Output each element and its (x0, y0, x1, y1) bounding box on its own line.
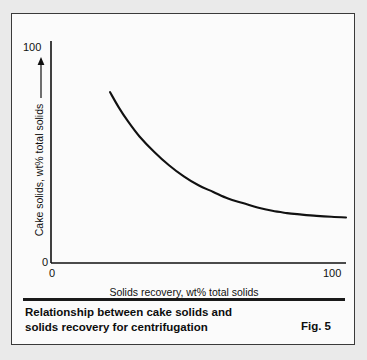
figure-caption-block: Relationship between cake solids and sol… (12, 298, 356, 344)
chart-svg (12, 14, 356, 304)
caption-line-2: solids recovery for centrifugation (25, 320, 275, 335)
caption-divider (23, 298, 345, 301)
caption-line-1: Relationship between cake solids and (25, 305, 275, 320)
y-axis-tick-max: 100 (23, 42, 41, 53)
x-axis-tick-min: 0 (49, 268, 55, 279)
figure-caption: Relationship between cake solids and sol… (25, 305, 275, 335)
chart-plot-area: 100 0 0 100 Cake solids, wt% total solid… (12, 14, 356, 304)
figure-number-label: Fig. 5 (301, 320, 331, 332)
figure-frame: 100 0 0 100 Cake solids, wt% total solid… (11, 13, 355, 345)
y-axis-title: Cake solids, wt% total solids (33, 80, 45, 260)
x-axis-title: Solids recovery, wt% total solids (12, 286, 356, 298)
x-axis-tick-max: 100 (323, 268, 341, 279)
figure-page: 100 0 0 100 Cake solids, wt% total solid… (0, 0, 367, 360)
data-series-line (110, 92, 346, 217)
